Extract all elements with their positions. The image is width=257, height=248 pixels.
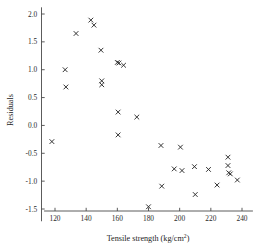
data-point [92,23,97,28]
x-axis-tick-label: 200 [174,214,185,223]
y-axis-tick-label: 0.5 [28,93,38,102]
x-axis-tick-label: 140 [81,214,92,223]
data-point [121,63,126,68]
residual-scatter-plot-figure: 2.01.51.00.50.0-0.5-1.0-1.5 120140160180… [0,0,257,248]
data-point [159,184,164,189]
data-point [50,139,55,144]
x-axis: 120140160180200220240 [44,208,253,223]
axis-titles: Tensile strength (kg/cm2)Residuals [6,94,190,242]
data-point [88,18,93,23]
x-axis-tick-label: 120 [49,214,60,223]
data-point [193,192,198,197]
y-axis-tick-label: -0.5 [26,149,38,158]
data-point [226,163,231,168]
data-point [64,85,69,90]
data-point [159,143,164,148]
y-axis-tick-label: 1.0 [28,65,38,74]
data-point-series [50,18,240,209]
data-point [192,164,197,169]
y-axis-tick-label: 0.0 [28,121,38,130]
data-point [63,67,68,72]
x-axis-tick-label: 240 [236,214,247,223]
data-point [99,82,104,87]
y-axis-tick-label: 2.0 [28,10,38,19]
y-axis-tick-label: -1.0 [26,177,38,186]
data-point [172,167,177,172]
x-axis-title: Tensile strength (kg/cm2) [107,233,190,243]
scatter-plot-canvas: 2.01.51.00.50.0-0.5-1.0-1.5 120140160180… [0,0,257,248]
y-axis-tick-label: 1.5 [28,37,38,46]
data-point [178,145,183,150]
data-point [134,115,139,120]
data-point [74,31,79,36]
data-point [226,155,231,160]
data-point [235,178,240,183]
y-axis: 2.01.51.00.50.0-0.5-1.0-1.5 [26,7,45,221]
x-axis-tick-label: 180 [143,214,154,223]
data-point [180,168,185,173]
x-axis-tick-label: 220 [205,214,216,223]
y-axis-tick-label: -1.5 [26,205,38,214]
data-point [215,183,220,188]
data-point [116,110,121,115]
y-axis-title: Residuals [6,94,15,126]
x-axis-tick-label: 160 [112,214,123,223]
data-point [99,48,104,53]
data-point [116,133,121,138]
data-point [206,167,211,172]
data-point [228,172,233,177]
